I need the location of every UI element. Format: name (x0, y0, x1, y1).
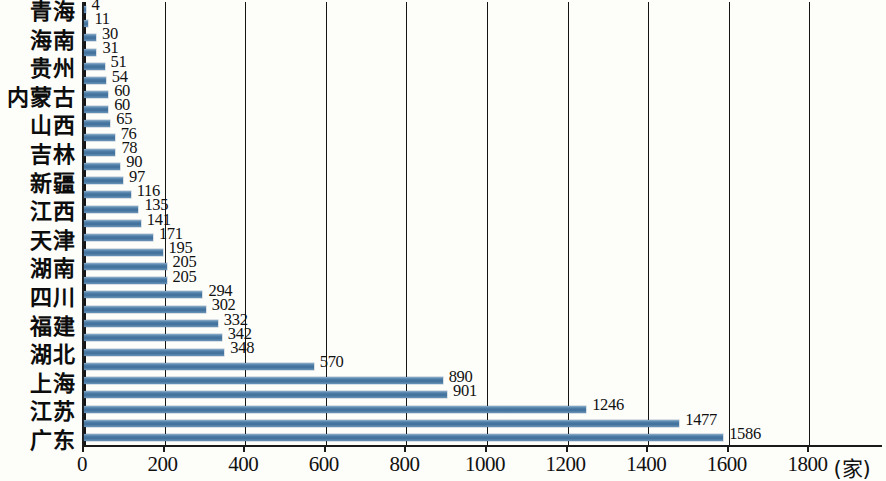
x-tick-label-1000: 1000 (465, 452, 505, 477)
x-tick-label-400: 400 (228, 452, 258, 477)
x-tick-0 (82, 445, 84, 452)
chart-page: 4113031515460606576789097116135141171195… (0, 0, 886, 481)
bar-value-label: 901 (453, 381, 477, 401)
bar (84, 391, 447, 398)
bar (84, 263, 167, 270)
bar-value-label: 1477 (685, 410, 717, 430)
bar (84, 49, 96, 56)
bar (84, 20, 88, 27)
bar (84, 363, 314, 370)
category-label-12: 新疆 (0, 165, 76, 197)
x-tick-1200 (566, 445, 568, 452)
category-label-6: 内蒙古 (0, 79, 76, 111)
x-tick-label-1400: 1400 (626, 452, 666, 477)
bar (84, 220, 141, 227)
bar (84, 349, 224, 356)
gridline-1000 (487, 2, 488, 445)
category-label-4: 贵州 (0, 50, 76, 82)
bar-value-label: 205 (173, 267, 197, 287)
x-tick-label-1200: 1200 (546, 452, 586, 477)
x-tick-1800 (807, 445, 809, 452)
x-tick-1000 (485, 445, 487, 452)
x-axis-unit-label: (家) (833, 452, 870, 481)
x-tick-200 (163, 445, 165, 452)
category-label-14: 江西 (0, 193, 76, 225)
bar (84, 420, 679, 427)
category-label-2: 海南 (0, 22, 76, 54)
bar (84, 234, 153, 241)
bar (84, 320, 218, 327)
x-tick-400 (243, 445, 245, 452)
category-label-22: 福建 (0, 308, 76, 340)
x-tick-label-600: 600 (309, 452, 339, 477)
category-label-18: 湖南 (0, 250, 76, 282)
x-tick-label-1800: 1800 (787, 452, 827, 477)
category-label-20: 四川 (0, 279, 76, 311)
category-label-26: 上海 (0, 365, 76, 397)
category-label-28: 江苏 (0, 393, 76, 425)
bar (84, 149, 115, 156)
bar (84, 377, 443, 384)
category-label-16: 天津 (0, 222, 76, 254)
category-label-10: 吉林 (0, 136, 76, 168)
bar (84, 277, 167, 284)
bar (84, 406, 586, 413)
gridline-1800 (809, 2, 810, 445)
x-tick-600 (324, 445, 326, 452)
bar (84, 306, 206, 313)
category-label-30: 广东 (0, 422, 76, 454)
bar (84, 206, 138, 213)
bar-value-label: 1246 (592, 395, 624, 415)
bar (84, 120, 110, 127)
gridline-1200 (568, 2, 569, 445)
bar (84, 63, 105, 70)
plot-area: 4113031515460606576789097116135141171195… (82, 2, 882, 445)
bar (84, 134, 115, 141)
bar (84, 91, 108, 98)
x-tick-1600 (727, 445, 729, 452)
gridline-1600 (729, 2, 730, 445)
bar-value-label: 1586 (729, 424, 761, 444)
bar (84, 334, 222, 341)
bar (84, 77, 106, 84)
bar (84, 163, 120, 170)
x-tick-1400 (646, 445, 648, 452)
bar (84, 106, 108, 113)
x-axis-line (82, 445, 882, 447)
bar (84, 249, 163, 256)
x-tick-label-0: 0 (77, 452, 87, 477)
x-tick-800 (404, 445, 406, 452)
bar (84, 177, 123, 184)
bar (84, 291, 202, 298)
bar (84, 191, 131, 198)
gridline-1400 (648, 2, 649, 445)
bar-value-label: 570 (320, 352, 344, 372)
x-tick-label-200: 200 (148, 452, 178, 477)
bar-value-label: 348 (230, 338, 254, 358)
category-label-8: 山西 (0, 107, 76, 139)
x-tick-label-1600: 1600 (707, 452, 747, 477)
bar (84, 34, 96, 41)
bar (84, 434, 723, 441)
x-tick-label-800: 800 (389, 452, 419, 477)
category-label-24: 湖北 (0, 336, 76, 368)
bar (84, 6, 86, 13)
